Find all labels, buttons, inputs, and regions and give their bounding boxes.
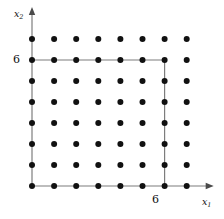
lattice-point <box>184 78 190 84</box>
y-axis-label-subscript: 2 <box>19 13 23 21</box>
lattice-point <box>95 99 101 105</box>
lattice-point <box>73 99 79 105</box>
lattice-point <box>95 120 101 126</box>
lattice-point <box>162 57 168 63</box>
lattice-point <box>162 183 168 189</box>
lattice-point <box>29 162 35 168</box>
lattice-point <box>51 162 57 168</box>
lattice-point <box>117 36 123 42</box>
lattice-point <box>117 57 123 63</box>
x1-axis-arrowhead <box>206 183 214 189</box>
lattice-point <box>117 99 123 105</box>
lattice-point <box>51 120 57 126</box>
lattice-point <box>95 183 101 189</box>
lattice-point <box>29 57 35 63</box>
lattice-point <box>184 120 190 126</box>
lattice-point <box>140 162 146 168</box>
lattice-point <box>117 78 123 84</box>
lattice-point <box>140 36 146 42</box>
x-axis-label: x1 <box>202 197 212 207</box>
lattice-point <box>95 36 101 42</box>
lattice-point <box>184 99 190 105</box>
lattice-point <box>162 141 168 147</box>
lattice-point <box>73 162 79 168</box>
lattice-point <box>51 141 57 147</box>
lattice-point <box>117 183 123 189</box>
lattice-point <box>29 99 35 105</box>
lattice-point <box>95 141 101 147</box>
lattice-point <box>73 78 79 84</box>
lattice-point <box>140 141 146 147</box>
lattice-point <box>162 99 168 105</box>
lattice-point <box>140 57 146 63</box>
lattice-point <box>73 120 79 126</box>
lattice-figure: x2 x1 6 6 <box>0 0 224 219</box>
lattice-point <box>162 78 168 84</box>
lattice-point <box>140 183 146 189</box>
lattice-point <box>184 36 190 42</box>
lattice-point <box>162 162 168 168</box>
lattice-point <box>51 57 57 63</box>
lattice-point <box>95 57 101 63</box>
lattice-point <box>140 120 146 126</box>
lattice-point <box>73 36 79 42</box>
x-axis-label-subscript: 1 <box>207 201 211 209</box>
lattice-point <box>51 36 57 42</box>
lattice-point <box>117 162 123 168</box>
lattice-point <box>117 120 123 126</box>
lattice-point <box>73 57 79 63</box>
lattice-point <box>184 141 190 147</box>
lattice-point <box>73 183 79 189</box>
lattice-point <box>162 36 168 42</box>
lattice-point <box>29 36 35 42</box>
lattice-point <box>29 183 35 189</box>
lattice-dots <box>29 36 190 189</box>
lattice-point <box>184 57 190 63</box>
lattice-point <box>29 78 35 84</box>
lattice-point <box>184 183 190 189</box>
lattice-point <box>140 78 146 84</box>
lattice-point <box>29 120 35 126</box>
plot-canvas <box>0 0 224 219</box>
lattice-point <box>140 99 146 105</box>
lattice-point <box>51 99 57 105</box>
lattice-point <box>95 78 101 84</box>
y-axis-label: x2 <box>14 9 24 19</box>
lattice-point <box>51 183 57 189</box>
lattice-point <box>73 141 79 147</box>
y-tick-label-6: 6 <box>13 54 20 65</box>
axis-lines <box>29 7 214 189</box>
lattice-point <box>95 162 101 168</box>
lattice-point <box>184 162 190 168</box>
lattice-point <box>117 141 123 147</box>
lattice-point <box>162 120 168 126</box>
x2-axis-arrowhead <box>29 7 35 15</box>
lattice-point <box>29 141 35 147</box>
x-tick-label-6: 6 <box>152 194 159 205</box>
lattice-point <box>51 78 57 84</box>
